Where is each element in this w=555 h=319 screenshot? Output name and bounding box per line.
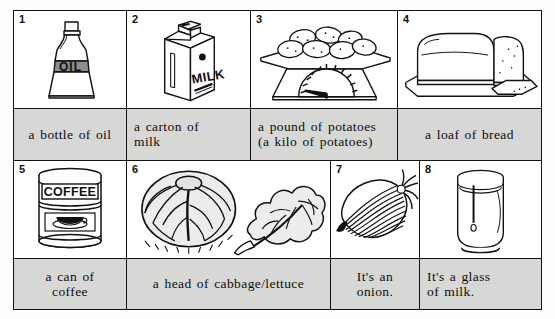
onion-icon xyxy=(331,161,419,258)
picture-cell-8[interactable]: 8 xyxy=(419,161,541,258)
caption-line-1: a can of xyxy=(46,269,95,284)
item-number-4: 4 xyxy=(403,13,409,25)
caption-text-3: a pound of potatoes (a kilo of potatoes) xyxy=(258,119,376,149)
caption-text-7: It's an onion. xyxy=(338,269,412,299)
picture-cell-1[interactable]: 1 OIL xyxy=(14,11,126,108)
caption-row-1: a bottle of oil a carton of milk a pound… xyxy=(14,108,541,160)
picture-cell-7[interactable]: 7 xyxy=(330,161,419,258)
picture-row-2: 5 xyxy=(14,161,541,258)
caption-line-2: (a kilo of potatoes) xyxy=(258,134,373,149)
caption-cell-8: It's a glass of milk. xyxy=(419,259,541,310)
caption-cell-2: a carton of milk xyxy=(126,109,250,160)
caption-line-2: milk xyxy=(134,134,160,149)
caption-cell-5: a can of coffee xyxy=(14,259,126,310)
item-number-1: 1 xyxy=(19,13,25,25)
potatoes-on-scale-icon xyxy=(251,11,397,108)
cabbage-lettuce-icon xyxy=(127,161,330,258)
item-number-6: 6 xyxy=(132,163,138,175)
caption-text-4: a loaf of bread xyxy=(405,127,534,142)
coffee-can-icon: COFFEE xyxy=(14,161,126,258)
grid-band-2: 5 xyxy=(14,160,541,310)
caption-text-5: a can of coffee xyxy=(21,269,119,299)
bread-loaf-icon xyxy=(398,11,541,108)
picture-cell-5[interactable]: 5 xyxy=(14,161,126,258)
caption-line-2: of milk. xyxy=(427,284,474,299)
grid-band-1: 1 OIL xyxy=(14,11,541,160)
picture-cell-4[interactable]: 4 xyxy=(397,11,541,108)
item-number-7: 7 xyxy=(336,163,342,175)
caption-line-1: a carton of xyxy=(134,119,199,134)
caption-cell-6: a head of cabbage/lettuce xyxy=(126,259,330,310)
caption-text-6: a head of cabbage/lettuce xyxy=(134,276,323,291)
milk-carton-icon: MILK xyxy=(127,11,250,108)
caption-cell-1: a bottle of oil xyxy=(14,109,126,160)
item-number-5: 5 xyxy=(19,163,25,175)
caption-text-1: a bottle of oil xyxy=(21,127,119,142)
svg-text:OIL: OIL xyxy=(59,60,82,74)
picture-cell-2[interactable]: 2 xyxy=(126,11,250,108)
glass-of-milk-icon xyxy=(420,161,541,258)
picture-cell-6[interactable]: 6 xyxy=(126,161,330,258)
caption-text-8: It's a glass of milk. xyxy=(427,269,490,299)
caption-text-2: a carton of milk xyxy=(134,119,199,149)
picture-vocabulary-grid: 1 OIL xyxy=(13,10,542,310)
item-number-3: 3 xyxy=(256,13,262,25)
item-number-8: 8 xyxy=(425,163,431,175)
oil-bottle-icon: OIL xyxy=(14,11,126,108)
caption-cell-7: It's an onion. xyxy=(330,259,419,310)
item-number-2: 2 xyxy=(132,13,138,25)
caption-cell-3: a pound of potatoes (a kilo of potatoes) xyxy=(250,109,397,160)
caption-line-1: a pound of potatoes xyxy=(258,119,376,134)
caption-cell-4: a loaf of bread xyxy=(397,109,541,160)
svg-text:COFFEE: COFFEE xyxy=(44,185,97,199)
picture-row-1: 1 OIL xyxy=(14,11,541,108)
caption-line-1: It's a glass xyxy=(427,269,490,284)
caption-line-2: coffee xyxy=(52,284,88,299)
caption-row-2: a can of coffee a head of cabbage/lettuc… xyxy=(14,258,541,310)
worksheet-sheet: 1 OIL xyxy=(0,0,555,319)
picture-cell-3[interactable]: 3 xyxy=(250,11,397,108)
